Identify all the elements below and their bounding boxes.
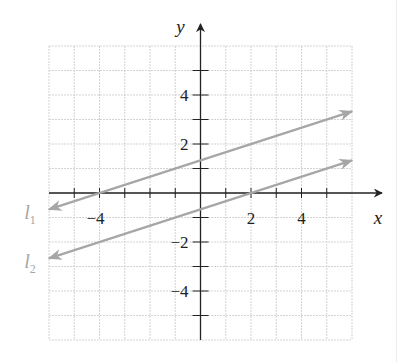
line-label-subscript: 2 <box>30 262 36 276</box>
x-tick-label: 2 <box>247 209 256 228</box>
x-tick-label: −4 <box>86 209 105 228</box>
line-label-subscript: 1 <box>30 213 36 227</box>
x-axis-label: x <box>373 207 383 228</box>
y-axis-label: y <box>174 16 185 37</box>
x-tick-label: 4 <box>297 209 306 228</box>
y-tick-label: −4 <box>170 282 189 301</box>
y-tick-label: 2 <box>180 135 189 154</box>
axes <box>49 24 382 340</box>
coordinate-plane-figure: −42442−2−4xyl1l2 <box>0 0 405 362</box>
line-label-l2: l2 <box>24 250 36 276</box>
y-tick-label: 4 <box>180 86 189 105</box>
y-tick-label: −2 <box>170 233 188 252</box>
page-edge-divider <box>396 0 397 362</box>
line-label-l1: l1 <box>24 201 36 227</box>
coordinate-plane: −42442−2−4xyl1l2 <box>0 0 405 362</box>
